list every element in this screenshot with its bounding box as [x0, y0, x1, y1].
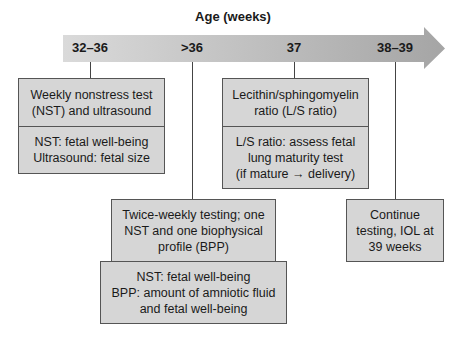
- box-37-detail: L/S ratio: assess fetal lung maturity te…: [222, 126, 369, 189]
- box-37-header-line: ratio (L/S ratio): [232, 103, 358, 119]
- box-38-39-line: testing, IOL at: [356, 223, 433, 239]
- box-over-36-header-line: NST and one biophysical: [122, 223, 264, 239]
- box-37-header: Lecithin/sphingomyelin ratio (L/S ratio): [222, 78, 369, 127]
- box-32-36-detail-line: Ultrasound: fetal size: [33, 150, 150, 166]
- connector-38-39: [395, 62, 396, 199]
- box-38-39-line: Continue: [356, 207, 433, 223]
- box-37-detail-line: L/S ratio: assess fetal: [236, 134, 356, 150]
- box-over-36-detail-line: NST: fetal well-being: [112, 269, 276, 285]
- box-37-header-line: Lecithin/sphingomyelin: [232, 87, 358, 103]
- connector-over-36: [192, 62, 193, 199]
- box-32-36-header-line: (NST) and ultrasound: [30, 103, 152, 119]
- box-32-36-header-line: Weekly nonstress test: [30, 87, 152, 103]
- tick-37: 37: [287, 40, 301, 55]
- connector-37: [294, 62, 295, 78]
- box-over-36-header-line: profile (BPP): [122, 239, 264, 255]
- box-over-36-detail-line: BPP: amount of amniotic fluid: [112, 285, 276, 301]
- box-over-36-header-line: Twice-weekly testing; one: [122, 207, 264, 223]
- tick-38-39: 38–39: [377, 40, 413, 55]
- box-32-36-header: Weekly nonstress test (NST) and ultrasou…: [18, 78, 165, 127]
- tick-32-36: 32–36: [72, 40, 108, 55]
- box-38-39-line: 39 weeks: [356, 239, 433, 255]
- box-32-36-detail-line: NST: fetal well-being: [33, 134, 150, 150]
- box-37-detail-line: lung maturity test: [236, 150, 356, 166]
- tick-over-36: >36: [181, 40, 203, 55]
- box-over-36-detail-line: and fetal well-being: [112, 301, 276, 317]
- box-over-36-detail: NST: fetal well-being BPP: amount of amn…: [100, 261, 287, 324]
- box-37-detail-line: (if mature → delivery): [236, 166, 356, 182]
- box-over-36-header: Twice-weekly testing; one NST and one bi…: [111, 199, 276, 262]
- connector-32-36: [90, 62, 91, 78]
- box-38-39: Continue testing, IOL at 39 weeks: [346, 199, 444, 262]
- box-32-36-detail: NST: fetal well-being Ultrasound: fetal …: [18, 126, 165, 174]
